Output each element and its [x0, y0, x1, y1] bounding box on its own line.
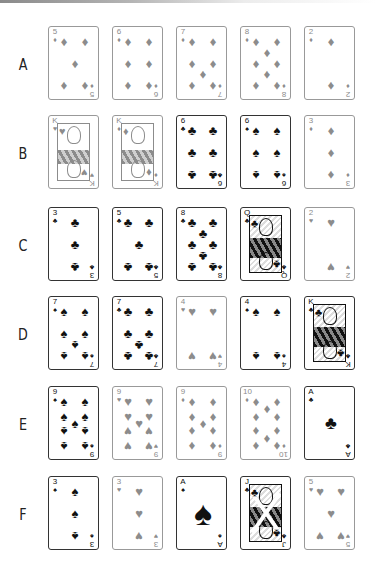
card-row-d: D7♠7♠♠♠♠♠♠♠♠7♣7♣♣♣♣♣♣♣♣4♥4♥♥♥♥♥4♠4♠♠♠♠♠K…	[0, 296, 376, 372]
row-label: F	[15, 506, 30, 524]
diamond-pip-icon: ♦	[185, 79, 199, 93]
card-k-of-diamonds[interactable]: K♦K♦♦♦	[112, 115, 163, 189]
heart-pip-icon: ♥	[334, 529, 348, 543]
heart-icon: ♥	[115, 486, 123, 493]
diamond-pip-icon: ♦	[185, 439, 199, 453]
diamond-pip-icon: ♦	[324, 124, 338, 138]
card-index-bot: 3♠	[88, 533, 96, 548]
diamond-pip-icon: ♦	[206, 424, 220, 438]
card-8-of-diamonds[interactable]: 8♦8♦♦♦♦♦♦♦♦♦	[240, 26, 291, 100]
card-index-bot: 3♦	[344, 172, 352, 187]
spade-pip-icon: ♠	[68, 507, 82, 521]
heart-icon: ♥	[81, 167, 88, 178]
card-5-of-hearts[interactable]: 5♥5♥♥♥♥♥♥	[304, 476, 355, 550]
club-pip-icon: ♣	[142, 260, 156, 274]
spade-pip-icon: ♠	[270, 168, 284, 182]
diamond-pip-icon: ♦	[324, 35, 338, 49]
card-rank: 3	[154, 540, 158, 549]
spade-pip-icon: ♠	[78, 395, 92, 409]
card-3-of-diamonds[interactable]: 3♦3♦♦♦♦	[304, 115, 355, 189]
club-icon: ♣	[315, 307, 322, 318]
card-3-of-clubs[interactable]: 3♣3♣♣♣♣	[48, 207, 99, 281]
card-index-top: A♣	[307, 388, 315, 403]
spade-pip-icon: ♠	[78, 349, 92, 363]
heart-pip-icon: ♥	[185, 305, 199, 319]
card-5-of-clubs[interactable]: 5♣5♣♣♣♣♣♣	[112, 207, 163, 281]
spade-icon: ♠	[216, 533, 224, 540]
card-a-of-clubs[interactable]: A♣A♣♣	[304, 386, 355, 460]
card-rank: 2	[309, 208, 313, 217]
heart-pip-icon: ♥	[142, 395, 156, 409]
club-icon: ♣	[307, 396, 315, 403]
diamond-pip-icon: ♦	[57, 35, 71, 49]
card-index-top: 3♣	[51, 209, 59, 224]
card-3-of-hearts[interactable]: 3♥3♥♥♥♥	[112, 476, 163, 550]
spade-icon: ♠	[179, 486, 187, 493]
heart-pip-icon: ♥	[206, 305, 220, 319]
card-4-of-hearts[interactable]: 4♥4♥♥♥♥♥	[176, 296, 227, 370]
spade-pip-icon: ♠	[270, 305, 284, 319]
card-k-of-clubs[interactable]: K♣K♣♣♣	[304, 296, 355, 370]
spade-icon: ♠	[88, 533, 96, 540]
card-6-of-clubs[interactable]: 6♣6♣♣♣♣♣♣♣	[176, 115, 227, 189]
club-pip-icon: ♣	[142, 349, 156, 363]
card-9-of-spades[interactable]: 9♠9♠♠♠♠♠♠♠♠♠♠	[48, 386, 99, 460]
club-pip-icon: ♣	[121, 305, 135, 319]
card-5-of-diamonds[interactable]: 5♦5♦♦♦♦♦♦	[48, 26, 99, 100]
diamond-pip-icon: ♦	[185, 395, 199, 409]
diamond-icon: ♦	[146, 167, 152, 178]
card-9-of-hearts[interactable]: 9♥9♥♥♥♥♥♥♥♥♥♥	[112, 386, 163, 460]
portrait-head-icon	[323, 341, 337, 359]
card-row-b: BK♥K♥♥♥K♦K♦♦♦6♣6♣♣♣♣♣♣♣6♠6♠♠♠♠♠♠♠3♦3♦♦♦♦	[0, 115, 376, 191]
card-a-of-spades[interactable]: A♠A♠♠	[176, 476, 227, 550]
card-7-of-clubs[interactable]: 7♣7♣♣♣♣♣♣♣♣	[112, 296, 163, 370]
heart-pip-icon: ♥	[132, 529, 146, 543]
diamond-icon: ♦	[307, 125, 315, 132]
card-4-of-spades[interactable]: 4♠4♠♠♠♠♠	[240, 296, 291, 370]
card-rank: J	[282, 540, 286, 549]
portrait-head-icon	[67, 126, 81, 144]
spade-pip-icon: ♠	[270, 146, 284, 160]
spade-pip-icon: ♠	[249, 124, 263, 138]
diamond-pip-icon: ♦	[121, 35, 135, 49]
club-pip-icon: ♣	[206, 168, 220, 182]
club-pip-icon: ♣	[132, 238, 146, 252]
card-rank: A	[308, 387, 313, 396]
top-gradient-bar	[0, 0, 376, 3]
card-10-of-diamonds[interactable]: 10♦10♦♦♦♦♦♦♦♦♦♦♦	[240, 386, 291, 460]
card-rank: 2	[346, 271, 350, 280]
card-6-of-diamonds[interactable]: 6♦6♦♦♦♦♦♦♦	[112, 26, 163, 100]
card-3-of-spades[interactable]: 3♠3♠♠♠♠	[48, 476, 99, 550]
club-pip-icon: ♣	[185, 146, 199, 160]
heart-pip-icon: ♥	[313, 529, 327, 543]
card-j-of-clubs[interactable]: J♣J♣♣♣	[240, 476, 291, 550]
spade-pip-icon: ♠	[270, 124, 284, 138]
face-card-portrait: ♥♥	[57, 123, 90, 181]
card-2-of-diamonds[interactable]: 2♦2♦♦♦	[304, 26, 355, 100]
card-7-of-diamonds[interactable]: 7♦7♦♦♦♦♦♦♦♦	[176, 26, 227, 100]
card-7-of-spades[interactable]: 7♠7♠♠♠♠♠♠♠♠	[48, 296, 99, 370]
card-row-f: F3♠3♠♠♠♠3♥3♥♥♥♥A♠A♠♠J♣J♣♣♣5♥5♥♥♥♥♥♥	[0, 476, 376, 552]
diamond-pip-icon: ♦	[121, 57, 135, 71]
club-pip-icon: ♣	[142, 216, 156, 230]
diamond-pip-icon: ♦	[57, 79, 71, 93]
diamond-pip-icon: ♦	[324, 79, 338, 93]
card-2-of-hearts[interactable]: 2♥2♥♥♥	[304, 207, 355, 281]
card-index-bot: A♠	[216, 533, 224, 548]
card-index-top: 3♦	[307, 117, 315, 132]
diamond-pip-icon: ♦	[185, 35, 199, 49]
club-pip-icon: ♣	[206, 124, 220, 138]
card-9-of-diamonds[interactable]: 9♦9♦♦♦♦♦♦♦♦♦♦	[176, 386, 227, 460]
card-rank: A	[217, 540, 222, 549]
spade-pip-icon: ♠	[68, 529, 82, 543]
card-6-of-spades[interactable]: 6♠6♠♠♠♠♠♠♠	[240, 115, 291, 189]
card-index-bot: 2♥	[344, 264, 352, 279]
card-index-bot: A♣	[344, 443, 352, 458]
club-icon: ♣	[51, 217, 59, 224]
diamond-pip-icon: ♦	[206, 35, 220, 49]
card-q-of-clubs[interactable]: Q♣Q♣♣♣	[240, 207, 291, 281]
diamond-pip-icon: ♦	[270, 439, 284, 453]
card-k-of-hearts[interactable]: K♥K♥♥♥	[48, 115, 99, 189]
spade-pip-icon: ♠	[78, 305, 92, 319]
card-8-of-clubs[interactable]: 8♣8♣♣♣♣♣♣♣♣♣	[176, 207, 227, 281]
